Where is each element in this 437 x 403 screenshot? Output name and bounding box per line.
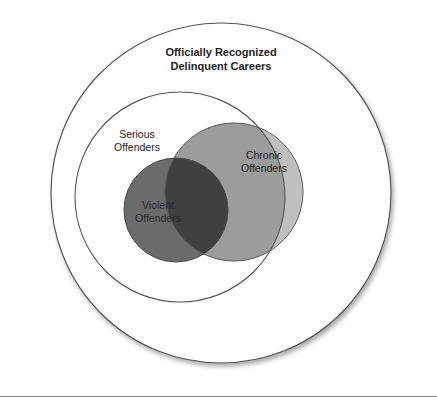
serious-offenders-label: Serious Offenders	[107, 128, 167, 154]
violent-offenders-label: Violent Offenders	[128, 199, 188, 225]
chronic-offenders-label: Chronic Offenders	[234, 149, 294, 175]
official-careers-label: Officially Recognized Delinquent Careers	[161, 45, 281, 73]
bottom-divider	[0, 396, 437, 397]
